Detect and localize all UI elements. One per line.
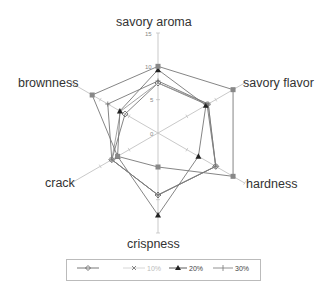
- legend-item-20: 20%: [169, 264, 203, 272]
- legend-label: 30%: [235, 265, 249, 272]
- axis-label-savory-aroma: savory aroma: [116, 15, 192, 29]
- legend-item-30: 30%: [213, 264, 249, 272]
- plus-marker-icon: [213, 264, 233, 272]
- legend-label: 10%: [147, 265, 161, 272]
- axis-label-crack: crack: [45, 176, 75, 190]
- x-marker-icon: [123, 264, 145, 272]
- legend-label: 20%: [189, 265, 203, 272]
- radar-chart: 0 5 10 15: [0, 0, 324, 297]
- triangle-marker-icon: [169, 264, 187, 272]
- axis-label-hardness: hardness: [246, 177, 297, 191]
- axis-label-crispness: crispness: [127, 237, 180, 251]
- legend-item-10: 10%: [123, 264, 161, 272]
- tick-5: 5: [150, 97, 154, 103]
- axis-label-brownness: brownness: [18, 76, 78, 90]
- radar-series: [90, 64, 236, 218]
- radar-axes: [70, 33, 245, 233]
- legend-item-diamond: [77, 264, 101, 272]
- tick-15: 15: [145, 31, 152, 37]
- chart-legend: 10% 20% 30%: [66, 259, 261, 281]
- axis-label-savory-flavor: savory flavor: [243, 76, 314, 90]
- tick-10: 10: [145, 64, 152, 70]
- diamond-marker-icon: [77, 264, 99, 272]
